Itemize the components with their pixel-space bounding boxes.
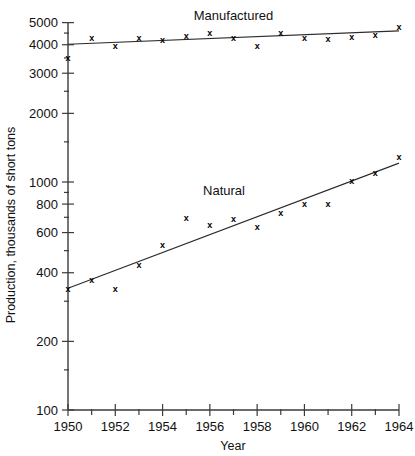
data-point-marker: x (302, 199, 307, 209)
y-axis-tick-label: 3000 (29, 66, 58, 81)
series-label-manufactured: Manufactured (194, 8, 274, 23)
data-point-marker: x (326, 199, 331, 209)
data-point-marker: x (255, 222, 260, 232)
data-point-marker: x (302, 33, 307, 43)
data-point-marker: x (231, 214, 236, 224)
x-axis-tick-label: 1956 (195, 419, 224, 434)
x-axis-tick-label: 1962 (337, 419, 366, 434)
x-axis-tick-label: 1958 (243, 419, 272, 434)
y-axis-tick-label: 800 (36, 197, 58, 212)
data-point-marker: x (113, 284, 118, 294)
data-point-marker: x (160, 35, 165, 45)
data-point-marker: x (278, 28, 283, 38)
data-point-marker: x (255, 41, 260, 51)
x-axis-tick-label: 1964 (385, 419, 414, 434)
y-axis: 10020040060080010002000300040005000 (29, 15, 74, 417)
y-axis-tick-label: 4000 (29, 37, 58, 52)
data-point-marker: x (231, 33, 236, 43)
data-point-marker: x (184, 213, 189, 223)
data-point-marker: x (349, 176, 354, 186)
x-axis-tick-label: 1952 (101, 419, 130, 434)
y-axis-tick-label: 200 (36, 334, 58, 349)
x-axis: 19501952195419561958196019621964 (54, 404, 414, 434)
y-axis-title: Production, thousands of short tons (4, 127, 18, 324)
y-axis-tick-label: 5000 (29, 15, 58, 30)
y-axis-tick-label: 2000 (29, 106, 58, 121)
data-point-marker: x (136, 33, 141, 43)
data-point-marker: x (278, 208, 283, 218)
data-point-marker: x (207, 28, 212, 38)
data-point-marker: x (184, 31, 189, 41)
data-point-marker: x (349, 32, 354, 42)
x-axis-tick-label: 1960 (290, 419, 319, 434)
data-point-marker: x (396, 22, 401, 32)
data-point-marker: x (89, 33, 94, 43)
data-point-marker: x (113, 41, 118, 51)
y-axis-tick-label: 100 (36, 403, 58, 418)
data-point-marker: x (160, 240, 165, 250)
y-axis-tick-label: 1000 (29, 175, 58, 190)
x-axis-title: Year (220, 439, 245, 453)
data-point-marker: x (65, 53, 70, 63)
data-point-marker: x (396, 152, 401, 162)
data-series-group: xxxxxxxxxxxxxxxxxxxxxxxxxxxxxx (65, 22, 401, 294)
y-axis-tick-label: 400 (36, 265, 58, 280)
data-point-marker: x (136, 260, 141, 270)
data-point-marker: x (65, 284, 70, 294)
series-label-natural: Natural (203, 183, 245, 198)
x-axis-tick-label: 1950 (54, 419, 83, 434)
y-axis-tick-label: 600 (36, 225, 58, 240)
data-point-marker: x (326, 34, 331, 44)
scatter-plot-svg: 10020040060080010002000300040005000 1950… (0, 0, 415, 456)
data-point-marker: x (207, 220, 212, 230)
x-axis-tick-label: 1954 (148, 419, 177, 434)
chart-container: 10020040060080010002000300040005000 1950… (0, 0, 415, 456)
data-point-marker: x (373, 168, 378, 178)
data-point-marker: x (373, 30, 378, 40)
data-point-marker: x (89, 275, 94, 285)
